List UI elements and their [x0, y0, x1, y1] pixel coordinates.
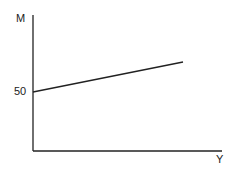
y-axis-label: M [16, 13, 25, 24]
data-line-m-vs-y [33, 62, 183, 92]
y-tick-label-50: 50 [14, 86, 26, 97]
chart-plot-area [0, 0, 236, 170]
x-axis-label: Y [216, 154, 223, 165]
